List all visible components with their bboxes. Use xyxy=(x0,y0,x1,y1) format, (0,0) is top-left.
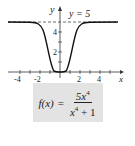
function-graph: y y = 5 4 2 -4 -2 2 4 x xyxy=(0,0,135,82)
x-tick-label-2: 2 xyxy=(77,75,81,82)
y-tick-label-4: 4 xyxy=(53,28,57,37)
x-tick-label-neg2: -2 xyxy=(34,75,41,82)
formula-fraction: 5x4 x4 + 1 xyxy=(68,87,98,117)
formula-numerator: 5x4 xyxy=(74,87,92,103)
y-axis-arrow-icon xyxy=(58,6,62,11)
x-tick-label-neg4: -4 xyxy=(14,75,21,82)
x-axis-label: x xyxy=(118,74,123,82)
formula-equals: = xyxy=(58,97,64,109)
formula-lhs: f(x) xyxy=(38,97,53,109)
formula-box: f(x) = 5x4 x4 + 1 xyxy=(33,83,103,122)
x-tick-label-4: 4 xyxy=(97,75,101,82)
formula-denominator: x4 + 1 xyxy=(68,103,98,118)
y-tick-label-2: 2 xyxy=(53,48,57,57)
y-axis-label: y xyxy=(49,4,55,15)
asymptote-label: y = 5 xyxy=(68,8,90,19)
function-curve xyxy=(8,22,118,72)
